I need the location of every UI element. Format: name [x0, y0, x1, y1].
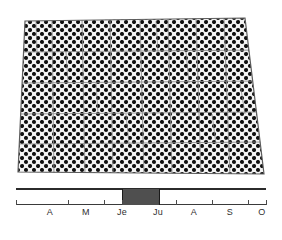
timeline-tick-8 [266, 200, 267, 205]
month-label-septembre: S [227, 207, 233, 217]
month-label-juin: Je [117, 207, 127, 217]
month-label-juillet: Ju [153, 207, 163, 217]
timeline-tick-7 [248, 200, 249, 205]
timeline-tick-5 [176, 200, 177, 205]
textured-block [0, 0, 282, 186]
month-timeline: AMJeJuASO [0, 185, 282, 240]
timeline-tick-6 [212, 200, 213, 205]
month-label-avril: A [47, 207, 53, 217]
timeline-highlight-bar[interactable] [122, 189, 160, 205]
timeline-tick-0 [16, 200, 17, 205]
timeline-tick-3 [122, 200, 123, 205]
figure-root: AMJeJuASO [0, 0, 282, 240]
timeline-tick-2 [104, 200, 105, 205]
timeline-tick-4 [158, 200, 159, 205]
month-label-aout: A [191, 207, 197, 217]
timeline-tick-1 [68, 200, 69, 205]
month-label-octobre: O [258, 207, 265, 217]
month-label-mai: M [82, 207, 90, 217]
